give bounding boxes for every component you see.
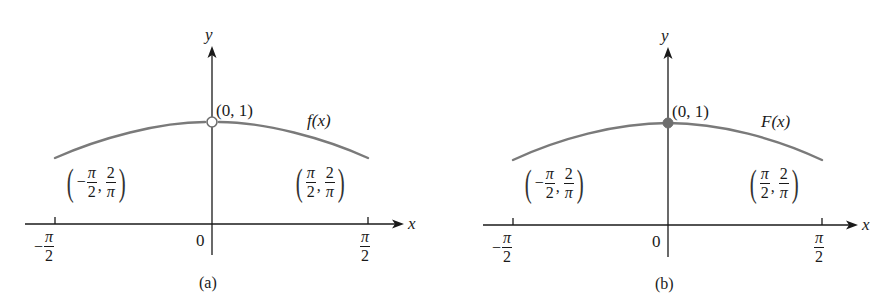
function-label-f: f(x) <box>307 112 331 129</box>
tick-label-pi-over-2: π2 <box>360 229 370 264</box>
function-label-F: F(x) <box>761 113 790 130</box>
left-endpoint-label: ( − π2 , 2π ) <box>64 163 128 201</box>
x-axis-label: x <box>862 216 870 233</box>
y-axis-label: y <box>205 26 213 43</box>
tick-label-neg-pi-over-2: − π2 <box>34 229 54 264</box>
left-endpoint-label: ( − π2 , 2π ) <box>522 164 586 202</box>
panel-b: y x (0, 1) F(x) 0 (b) − π2 π2 ( − π2 , 2… <box>456 0 896 308</box>
point-label-0-1: (0, 1) <box>672 103 709 120</box>
right-endpoint-label: ( π2 , 2π ) <box>293 163 347 201</box>
panel-caption-a: (a) <box>199 275 217 291</box>
tick-label-pi-over-2: π2 <box>814 230 824 265</box>
panel-a: y x (0, 1) f(x) 0 (a) − π2 π2 ( − π2 , 2… <box>0 0 448 308</box>
tick-label-neg-pi-over-2: − π2 <box>492 230 512 265</box>
plot-b-graphics <box>456 0 896 308</box>
plot-a-graphics <box>0 0 448 308</box>
panel-caption-b: (b) <box>655 276 674 292</box>
origin-label: 0 <box>652 233 661 250</box>
x-axis-label: x <box>408 215 416 232</box>
y-axis-label: y <box>661 27 669 44</box>
origin-label: 0 <box>196 232 205 249</box>
right-endpoint-label: ( π2 , 2π ) <box>747 164 801 202</box>
point-label-0-1: (0, 1) <box>216 102 253 119</box>
